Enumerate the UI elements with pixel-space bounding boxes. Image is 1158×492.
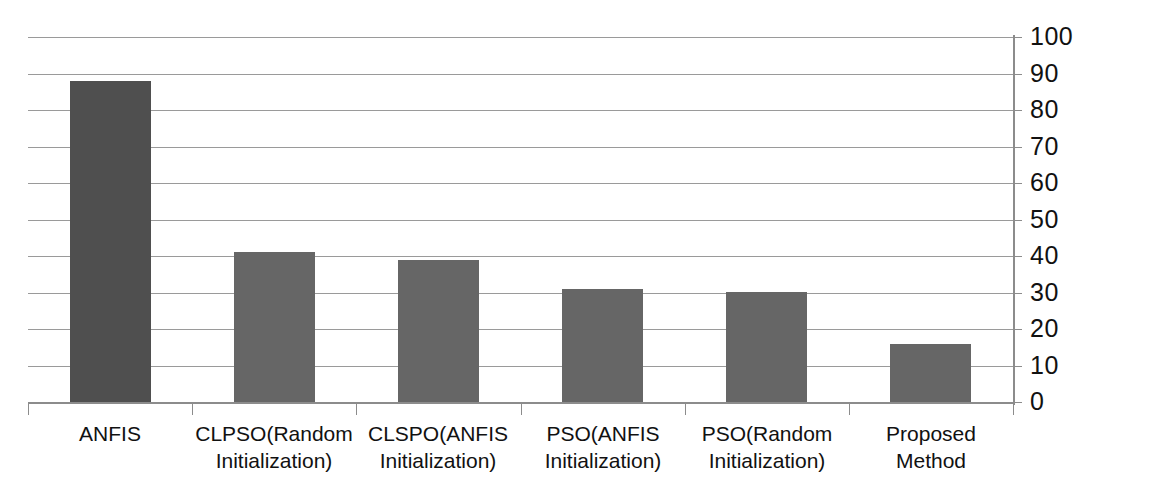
category-label: PSO(RandomInitialization) bbox=[685, 420, 849, 474]
category-tick bbox=[192, 402, 193, 415]
category-label-line: CLSPO(ANFIS bbox=[356, 420, 520, 447]
axis-tick bbox=[1013, 366, 1022, 367]
axis-tick-label: 70 bbox=[1030, 134, 1059, 159]
category-label-line: PSO(ANFIS bbox=[521, 420, 685, 447]
axis-tick-label: 20 bbox=[1030, 316, 1059, 341]
axis-tick-label: 100 bbox=[1030, 24, 1073, 49]
category-tick bbox=[685, 402, 686, 415]
axis-tick-label: 30 bbox=[1030, 280, 1059, 305]
bar bbox=[234, 252, 315, 402]
axis-tick bbox=[1013, 402, 1022, 403]
bar bbox=[890, 344, 971, 402]
category-label-line: ANFIS bbox=[28, 420, 192, 447]
axis-tick bbox=[1013, 293, 1022, 294]
bar bbox=[398, 260, 479, 402]
category-label-line: Initialization) bbox=[356, 447, 520, 474]
axis-tick bbox=[1013, 183, 1022, 184]
bars-layer bbox=[28, 37, 1013, 402]
axis-tick-label: 0 bbox=[1030, 389, 1044, 414]
axis-tick-label: 80 bbox=[1030, 97, 1059, 122]
category-label: ANFIS bbox=[28, 420, 192, 447]
axis-tick bbox=[1013, 110, 1022, 111]
axis-tick bbox=[1013, 147, 1022, 148]
category-label-line: PSO(Random bbox=[685, 420, 849, 447]
category-label-line: CLPSO(Random bbox=[192, 420, 356, 447]
axis-tick-label: 40 bbox=[1030, 243, 1059, 268]
category-label-line: Initialization) bbox=[521, 447, 685, 474]
category-label: Proposed Method bbox=[849, 420, 1013, 474]
category-tick bbox=[521, 402, 522, 415]
category-label: CLPSO(RandomInitialization) bbox=[192, 420, 356, 474]
category-tick bbox=[28, 402, 29, 415]
axis-tick-label: 10 bbox=[1030, 353, 1059, 378]
bar bbox=[726, 292, 807, 402]
category-label: PSO(ANFISInitialization) bbox=[521, 420, 685, 474]
category-label-line: Initialization) bbox=[192, 447, 356, 474]
category-label-line: Proposed Method bbox=[849, 420, 1013, 474]
bar bbox=[70, 81, 151, 402]
axis-tick-label: 60 bbox=[1030, 170, 1059, 195]
category-label-line: Initialization) bbox=[685, 447, 849, 474]
axis-tick-label: 90 bbox=[1030, 61, 1059, 86]
category-tick bbox=[849, 402, 850, 415]
category-label: CLSPO(ANFISInitialization) bbox=[356, 420, 520, 474]
axis-tick bbox=[1013, 256, 1022, 257]
bar bbox=[562, 289, 643, 402]
category-tick bbox=[356, 402, 357, 415]
category-tick bbox=[1013, 402, 1014, 415]
axis-tick bbox=[1013, 329, 1022, 330]
axis-tick bbox=[1013, 74, 1022, 75]
bar-chart: 0102030405060708090100 ANFISCLPSO(Random… bbox=[0, 0, 1158, 492]
axis-tick bbox=[1013, 37, 1022, 38]
axis-tick bbox=[1013, 220, 1022, 221]
axis-tick-label: 50 bbox=[1030, 207, 1059, 232]
